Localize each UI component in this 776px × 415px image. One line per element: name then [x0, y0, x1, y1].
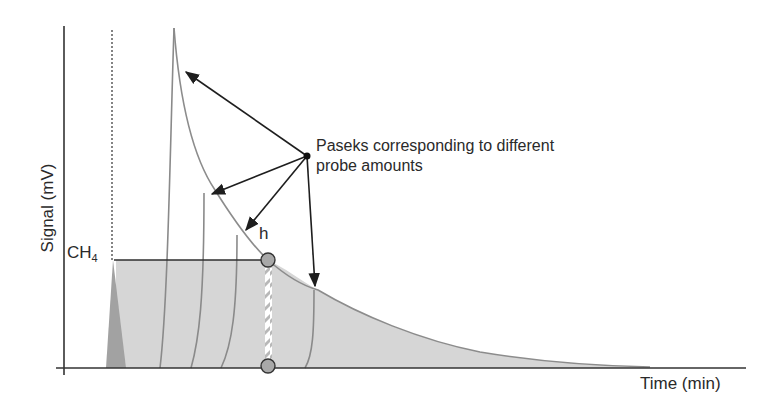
methane-label-text: CH [67, 243, 92, 262]
annotation-line-1: Paseks corresponding to different [316, 136, 554, 156]
height-label: h [259, 224, 268, 244]
height-bar [265, 268, 272, 364]
x-axis-label: Time (min) [640, 374, 721, 394]
annotation-line-2: probe amounts [316, 156, 554, 176]
annotation-text: Paseks corresponding to different probe … [316, 136, 554, 176]
shaded-area [116, 260, 650, 368]
methane-subscript: 4 [92, 252, 98, 264]
diagram-canvas [0, 0, 776, 415]
y-axis-label: Signal (mV) [38, 148, 58, 268]
height-top-marker [261, 253, 275, 267]
height-bottom-marker [261, 359, 275, 373]
methane-label: CH4 [67, 243, 98, 264]
annotation-arrows [186, 72, 315, 286]
annotation-point [304, 153, 311, 160]
chromatogram-diagram: Signal (mV) Time (min) CH4 h Paseks corr… [0, 0, 776, 415]
